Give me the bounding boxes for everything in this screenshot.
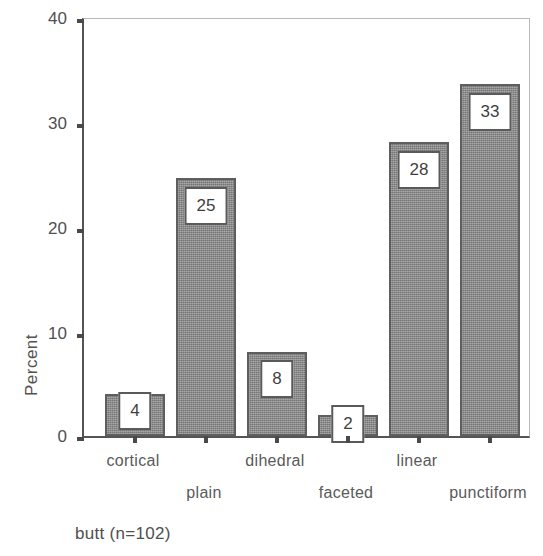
x-tick-mark [488,436,492,443]
x-tick-mark [417,436,421,443]
x-label-dihedral: dihedral [245,452,304,470]
y-tick-label: 10 [48,324,67,344]
x-tick-mark [275,436,279,443]
y-tick-label: 0 [58,427,67,447]
y-tick-mark: 30 [77,124,84,128]
bar-value-label: 4 [118,392,151,430]
figure-caption: butt (n=102) [75,524,171,544]
x-label-plain: plain [186,484,221,502]
y-tick-mark: 10 [77,334,84,338]
x-label-faceted: faceted [319,484,374,502]
bar-plain: 25 [176,178,236,436]
bar-value-label: 8 [260,360,293,398]
bar-dihedral: 8 [247,352,307,436]
bar-chart-figure: Percent 40 30 20 10 0 4 25 [0,0,543,556]
y-tick-label: 30 [48,114,67,134]
bar-punctiform: 33 [460,84,520,436]
x-tick-mark [133,436,137,443]
y-tick-label: 40 [48,9,67,29]
bar-value-label: 25 [185,187,228,225]
y-tick-mark: 20 [77,229,84,233]
bar-faceted: 2 [318,415,378,436]
bar-value-label: 33 [469,93,512,131]
bar-cortical: 4 [105,394,165,436]
x-tick-mark [204,436,208,443]
plot-area: 40 30 20 10 0 4 25 8 [82,18,530,438]
x-label-punctiform: punctiform [449,484,527,502]
x-label-cortical: cortical [106,452,159,470]
bar-series: 4 25 8 2 28 33 [84,19,529,436]
x-tick-mark [346,436,350,443]
bar-value-label: 28 [398,151,441,189]
y-tick-mark: 0 [77,437,84,441]
y-tick-label: 20 [48,219,67,239]
bar-linear: 28 [389,142,449,436]
x-label-linear: linear [397,452,438,470]
y-tick-mark: 40 [77,19,84,23]
y-axis-title: Percent [22,305,42,425]
